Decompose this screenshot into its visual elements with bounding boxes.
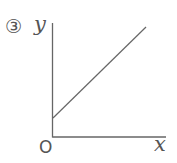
graph — [0, 0, 177, 163]
x-axis-label: x — [154, 134, 166, 155]
problem-number: ③ — [5, 17, 22, 36]
y-axis-label: y — [34, 14, 46, 35]
graph-line — [53, 27, 146, 118]
origin-label: O — [39, 139, 52, 156]
